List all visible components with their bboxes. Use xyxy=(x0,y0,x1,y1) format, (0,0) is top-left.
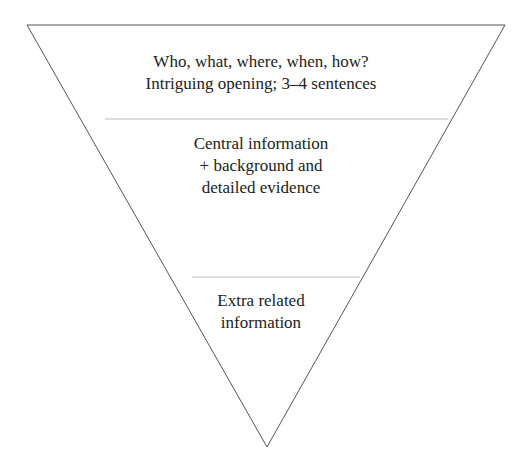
section-middle-body: Central information + background and det… xyxy=(0,133,522,199)
section-top-lead: Who, what, where, when, how? Intriguing … xyxy=(0,51,522,95)
section-top-line-1: Who, what, where, when, how? xyxy=(0,51,522,73)
section-top-line-2: Intriguing opening; 3–4 sentences xyxy=(0,73,522,95)
section-middle-line-2: + background and xyxy=(0,155,522,177)
section-bottom-line-2: information xyxy=(0,312,522,334)
section-bottom-tail: Extra related information xyxy=(0,290,522,334)
section-middle-line-1: Central information xyxy=(0,133,522,155)
section-bottom-line-1: Extra related xyxy=(0,290,522,312)
section-middle-line-3: detailed evidence xyxy=(0,177,522,199)
